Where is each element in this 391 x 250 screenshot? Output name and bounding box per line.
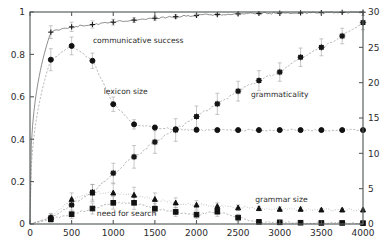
data-point-triangle <box>194 202 199 207</box>
data-point-circle <box>152 125 157 130</box>
y-tick-label: 0 <box>19 219 25 229</box>
data-point-circle <box>298 128 303 133</box>
y2-tick-label: 0 <box>368 219 374 229</box>
y2-tick-label: 5 <box>368 184 374 194</box>
x-tick-label: 3500 <box>310 228 333 238</box>
series-annotations-layer: communicative successlexicon sizegrammat… <box>93 36 309 218</box>
data-point-circle <box>215 128 220 133</box>
chart-canvas: 0500100015002000250030003500400000.20.40… <box>0 0 391 250</box>
annotation-communicative-success: communicative success <box>93 36 184 45</box>
y-tick-label: 0.4 <box>11 135 26 145</box>
data-point-square <box>236 215 241 220</box>
data-point-triangle <box>132 192 137 197</box>
y-tick-label: 0.6 <box>11 92 26 102</box>
data-point-triangle <box>69 197 74 202</box>
data-point-square <box>173 210 178 215</box>
data-point-triangle <box>111 190 116 195</box>
data-point-square <box>49 217 54 222</box>
annotation-lexicon-size: lexicon size <box>104 87 148 96</box>
y-tick-label: 0.8 <box>11 50 26 60</box>
y2-tick-label: 25 <box>368 43 379 53</box>
data-point-square <box>194 212 199 217</box>
y2-tick-label: 10 <box>368 149 380 159</box>
y2-tick-label: 15 <box>368 113 379 123</box>
data-point-square <box>215 209 220 214</box>
data-point-circle <box>111 102 116 107</box>
tick-labels-layer: 0500100015002000250030003500400000.20.40… <box>11 7 380 238</box>
data-point-circle <box>194 127 199 132</box>
data-point-circle <box>69 43 74 48</box>
annotation-grammar-size: grammar size <box>255 195 308 204</box>
x-tick-label: 500 <box>63 228 80 238</box>
x-tick-label: 4000 <box>352 228 375 238</box>
data-point-circle <box>277 128 282 133</box>
data-point-circle <box>48 57 53 62</box>
data-point-triangle <box>340 207 345 212</box>
y2-tick-label: 20 <box>368 78 380 88</box>
x-tick-label: 3000 <box>268 228 291 238</box>
x-tick-label: 0 <box>27 228 33 238</box>
data-point-square <box>69 212 74 217</box>
x-tick-label: 2500 <box>227 228 250 238</box>
data-point-circle <box>132 122 137 127</box>
data-point-circle <box>236 128 241 133</box>
data-point-square <box>90 206 95 211</box>
y-tick-label: 0.2 <box>11 177 25 187</box>
data-point-triangle <box>215 204 220 209</box>
y2-tick-label: 30 <box>368 7 380 17</box>
data-point-circle <box>90 58 95 63</box>
y-tick-label: 1 <box>19 7 25 17</box>
data-point-triangle <box>152 197 157 202</box>
chart-figure: 0500100015002000250030003500400000.20.40… <box>0 0 391 250</box>
x-tick-label: 1500 <box>143 228 166 238</box>
annotation-grammaticality: grammaticality <box>251 90 309 99</box>
data-point-square <box>111 201 116 206</box>
x-tick-label: 1000 <box>102 228 125 238</box>
data-point-triangle <box>319 207 324 212</box>
x-tick-label: 2000 <box>185 228 208 238</box>
data-point-circle <box>319 128 324 133</box>
data-point-square <box>132 201 137 206</box>
data-point-triangle <box>173 200 178 205</box>
data-point-circle <box>256 128 261 133</box>
data-point-triangle <box>236 205 241 210</box>
data-point-circle <box>340 128 345 133</box>
annotation-need-for-search: need for search <box>97 209 157 218</box>
